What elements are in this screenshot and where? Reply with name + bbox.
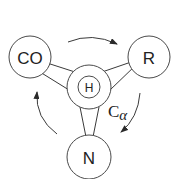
hydrogen-label: H [85, 81, 94, 95]
c-alpha-sub: α [119, 107, 128, 123]
chirality-diagram: CO R N H Cα [0, 0, 189, 179]
central-carbon: H [67, 65, 111, 109]
c-alpha-label: Cα [108, 102, 128, 123]
arrow-co-to-r [68, 37, 117, 44]
arrow-n-to-co [37, 92, 57, 134]
group-co: CO [9, 36, 51, 78]
group-co-label: CO [17, 49, 43, 68]
group-r: R [128, 36, 170, 78]
group-r-label: R [143, 49, 155, 68]
group-n-label: N [83, 149, 95, 168]
bond-n [80, 107, 99, 137]
group-n: N [67, 135, 111, 179]
c-alpha-main: C [108, 102, 119, 121]
